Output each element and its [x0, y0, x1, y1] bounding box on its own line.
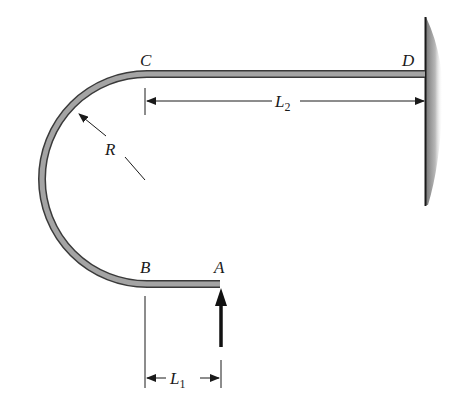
diagram-canvas: C D B A R L2 L1 [0, 0, 464, 415]
curved-bar [42, 74, 425, 284]
fixed-support-wall [426, 17, 443, 206]
l1-dimension [145, 296, 221, 388]
l1-symbol: L [169, 369, 179, 388]
l1-subscript: 1 [179, 377, 185, 391]
l2-label: L2 [274, 92, 290, 114]
point-label-d: D [401, 51, 415, 70]
l2-symbol: L [274, 92, 284, 111]
radius-label: R [104, 140, 116, 159]
point-label-c: C [140, 51, 152, 70]
point-label-b: B [140, 258, 151, 277]
point-label-a: A [213, 258, 225, 277]
load-arrow-up [215, 288, 227, 347]
l1-label: L1 [169, 369, 185, 391]
l2-subscript: 2 [284, 100, 290, 114]
